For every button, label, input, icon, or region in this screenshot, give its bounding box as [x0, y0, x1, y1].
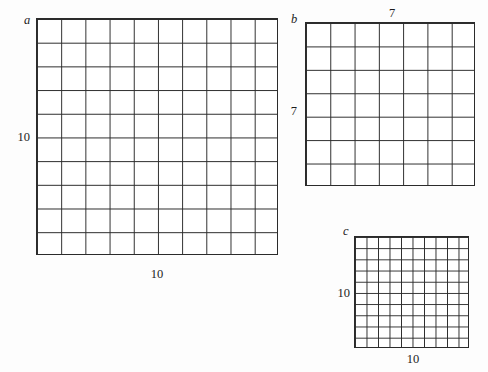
grid-c [354, 236, 469, 348]
grid-b [305, 22, 475, 186]
grid-a [36, 18, 278, 255]
dimension-label-a-bottom: 10 [127, 268, 187, 281]
dimension-label-c-bottom: 10 [383, 353, 443, 366]
panel-letter-c: c [343, 225, 349, 238]
dimension-label-b-left: 7 [283, 105, 297, 118]
dimension-label-c-left: 10 [326, 287, 350, 300]
dimension-label-b-top: 7 [362, 7, 422, 20]
panel-letter-a: a [24, 14, 30, 27]
figure-canvas: a 10 10 b 7 7 c 10 10 [0, 0, 488, 372]
dimension-label-a-left: 10 [2, 131, 30, 144]
panel-letter-b: b [291, 13, 297, 26]
